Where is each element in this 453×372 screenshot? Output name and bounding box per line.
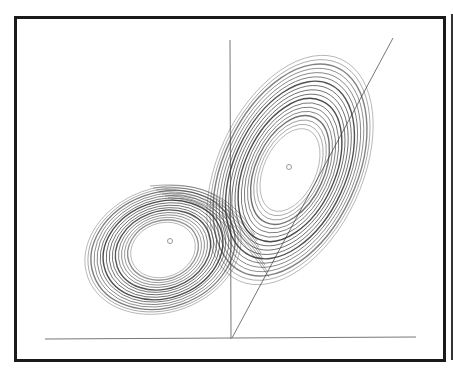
trajectory-loop bbox=[85, 181, 240, 320]
trajectory-loop bbox=[195, 55, 385, 284]
trajectory-loop bbox=[178, 34, 403, 305]
trajectory-loop bbox=[191, 50, 389, 290]
right-fixed-point-icon bbox=[287, 165, 292, 170]
trajectory-loop bbox=[235, 103, 346, 237]
left-fixed-point-icon bbox=[168, 239, 173, 244]
trajectory-loop bbox=[82, 177, 245, 322]
diagonal-axis-line bbox=[232, 38, 393, 338]
vertical-axis-line bbox=[230, 40, 231, 339]
trajectory bbox=[67, 29, 407, 336]
trajectory-loop bbox=[199, 61, 380, 279]
trajectory-loop bbox=[70, 168, 255, 333]
trajectory-loop bbox=[89, 184, 237, 316]
lorenz-attractor-figure bbox=[0, 0, 453, 372]
trajectory-loop bbox=[182, 40, 398, 301]
attractor-plot bbox=[0, 0, 453, 372]
